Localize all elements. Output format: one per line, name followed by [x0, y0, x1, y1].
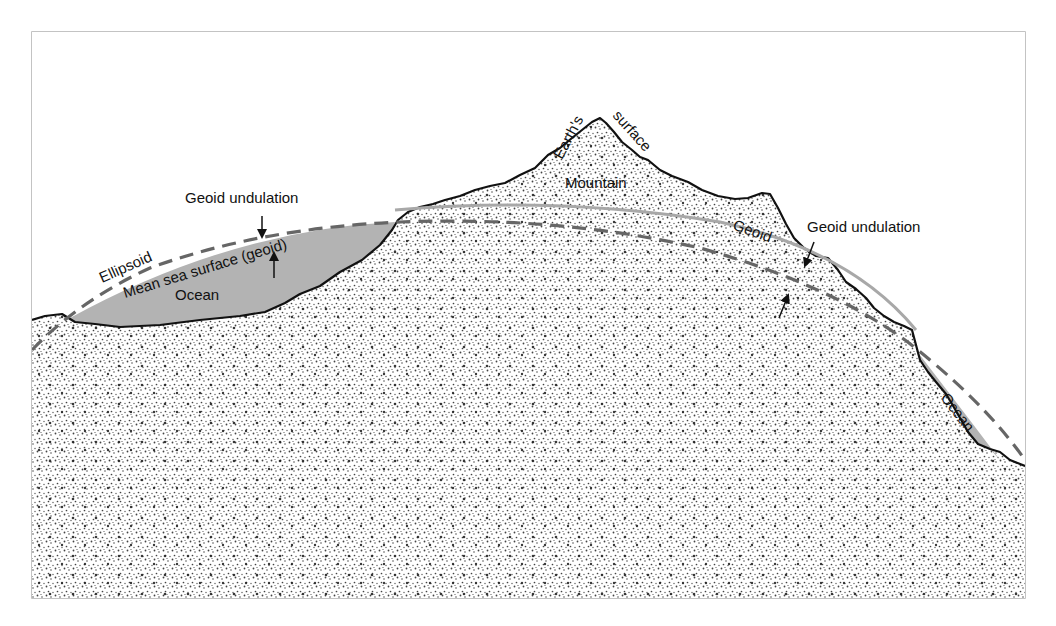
- label-geoid-undulation-right: Geoid undulation: [807, 218, 920, 235]
- label-mountain: Mountain: [565, 174, 627, 191]
- label-ocean-left: Ocean: [175, 286, 219, 303]
- label-geoid-undulation-left: Geoid undulation: [185, 189, 298, 206]
- geoid-diagram: Earth's surface Mountain Geoid undulatio…: [0, 0, 1056, 626]
